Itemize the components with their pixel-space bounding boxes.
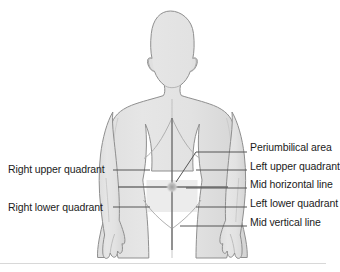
umbilicus-marker bbox=[166, 181, 178, 193]
label-periumbilical-area: Periumbilical area bbox=[250, 141, 332, 153]
label-mid-vertical-line: Mid vertical line bbox=[250, 216, 321, 228]
label-left-upper-quadrant: Left upper quadrant bbox=[250, 160, 340, 172]
label-left-lower-quadrant: Left lower quadrant bbox=[250, 197, 338, 209]
label-mid-horizontal-line: Mid horizontal line bbox=[250, 178, 333, 190]
bottom-divider bbox=[0, 263, 326, 264]
label-right-upper-quadrant: Right upper quadrant bbox=[8, 163, 105, 175]
label-right-lower-quadrant: Right lower quadrant bbox=[8, 201, 103, 213]
